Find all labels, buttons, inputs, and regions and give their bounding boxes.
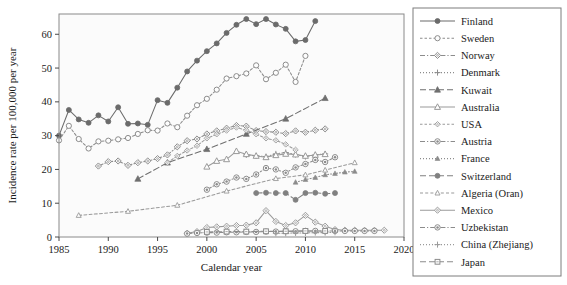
data-marker [96,139,101,144]
data-marker [224,76,229,81]
legend-label: Japan [461,257,486,268]
legend-label: Algeria (Oran) [461,188,524,200]
x-tick-label: 1990 [98,244,119,255]
data-marker-inner [363,230,366,233]
legend-label: Finland [461,16,494,27]
data-marker [214,87,219,92]
data-marker [303,53,308,58]
data-marker [185,113,190,118]
x-axis-title: Calendar year [201,261,263,273]
plot-background [59,14,404,237]
data-marker [224,30,229,35]
data-marker [273,22,278,27]
data-marker-inner [245,178,248,181]
data-marker [333,191,338,196]
data-marker-inner [196,232,199,235]
data-marker-inner [215,183,218,186]
data-marker [273,70,278,75]
data-marker [165,121,170,126]
y-axis: 0102030405060Incidence rate per 100,000 … [6,29,59,243]
data-marker-inner [344,230,347,233]
data-marker-inner [324,161,327,164]
data-marker-inner [304,163,307,166]
data-marker [125,135,130,140]
data-marker [194,103,199,108]
legend-label: Uzbekistan [461,222,509,233]
x-tick-label: 2010 [295,244,316,255]
data-marker [303,191,308,196]
data-marker [155,128,160,133]
chart-canvas: 19851990199520002005201020152020Calendar… [0,0,567,285]
data-marker [254,191,259,196]
data-marker [234,74,239,79]
data-marker [185,69,190,74]
data-marker [175,125,180,130]
data-marker [76,117,81,122]
data-marker [145,122,150,127]
legend: FinlandSwedenNorwayDenmarkKuwaitAustrali… [413,8,561,276]
data-marker-inner [225,180,228,183]
data-marker [283,26,288,31]
data-marker [214,41,219,46]
data-marker [264,190,269,195]
x-tick-label: 2005 [246,244,267,255]
legend-label: Austria [461,136,492,147]
legend-label: Sweden [461,33,495,44]
data-marker [435,19,440,24]
data-marker [435,173,440,178]
data-marker [116,137,121,142]
data-marker [254,63,259,68]
data-marker [323,191,328,196]
data-marker [263,77,268,82]
data-marker-inner [235,176,238,179]
data-marker-inner [436,140,439,143]
data-marker [106,138,111,143]
data-marker [293,79,298,84]
legend-label: Kuwait [461,85,492,96]
data-marker [106,119,111,124]
data-marker [264,17,269,22]
data-marker [165,100,170,105]
y-tick-label: 50 [42,63,53,74]
data-marker [86,120,91,125]
data-marker [283,191,288,196]
data-marker [293,39,298,44]
data-marker [435,36,440,41]
data-marker-inner [255,173,258,176]
data-marker [86,146,91,151]
data-marker [204,49,209,54]
data-marker [273,191,278,196]
data-marker [135,121,140,126]
data-marker-inner [294,166,297,169]
data-marker [155,98,160,103]
data-marker [254,22,259,27]
data-marker-inner [275,168,278,171]
x-axis: 19851990199520002005201020152020Calendar… [49,237,415,273]
data-marker [313,190,318,195]
legend-label: USA [461,119,482,130]
data-marker [126,121,131,126]
data-marker [195,58,200,63]
data-marker [313,19,318,24]
data-marker [293,197,298,202]
legend-label: China (Zhejiang) [461,239,534,251]
data-marker [175,85,180,90]
data-marker-inner [334,156,337,159]
data-marker-inner [373,230,376,233]
x-tick-label: 1995 [147,244,168,255]
data-marker [76,136,81,141]
data-marker-inner [265,167,268,170]
y-axis-title: Incidence rate per 100,000 per year [6,47,18,203]
legend-label: Mexico [461,205,493,216]
legend-label: Denmark [461,67,501,78]
data-marker [303,38,308,43]
y-tick-label: 40 [42,96,53,107]
data-marker [244,71,249,76]
data-marker-inner [284,172,287,175]
data-marker [96,113,101,118]
data-marker [204,96,209,101]
data-marker-inner [353,230,356,233]
legend-label: Norway [461,50,496,61]
y-tick-label: 30 [42,130,53,141]
data-marker [66,107,71,112]
